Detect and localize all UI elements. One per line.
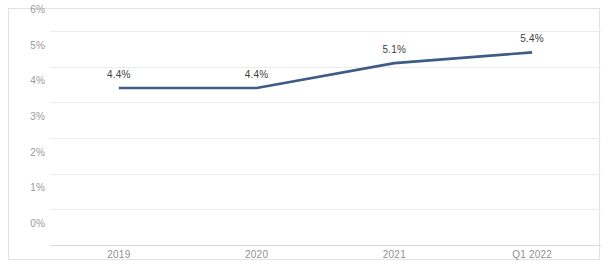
plot-area: 4.4% 4.4% 5.1% 5.4%: [50, 31, 601, 245]
y-tick-label: 5%: [30, 39, 45, 50]
data-label: 5.1%: [383, 44, 407, 55]
x-axis: 2019 2020 2021 Q1 2022: [50, 249, 601, 267]
chart-frame: 6% 5% 4% 3% 2% 1% 0% 4.4% 4.4% 5.1% 5.4%: [8, 8, 600, 260]
y-axis: 6% 5% 4% 3% 2% 1% 0%: [9, 9, 50, 259]
chart-screenshot: 6% 5% 4% 3% 2% 1% 0% 4.4% 4.4% 5.1% 5.4%: [0, 0, 612, 268]
y-tick-label: 6%: [30, 4, 45, 15]
y-tick-label: 2%: [30, 146, 45, 157]
data-label: 4.4%: [245, 69, 269, 80]
x-tick-label: Q1 2022: [512, 249, 552, 260]
y-tick-label: 3%: [30, 111, 45, 122]
y-tick-label: 0%: [30, 218, 45, 229]
x-tick-label: 2021: [383, 249, 406, 260]
data-label: 4.4%: [107, 69, 131, 80]
x-tick-label: 2019: [107, 249, 130, 260]
series-line-path: [119, 52, 532, 88]
data-label: 5.4%: [520, 33, 544, 44]
gridline-0pct: [50, 245, 601, 246]
y-tick-label: 4%: [30, 75, 45, 86]
y-tick-label: 1%: [30, 182, 45, 193]
line-series: [50, 31, 601, 245]
x-tick-label: 2020: [245, 249, 268, 260]
